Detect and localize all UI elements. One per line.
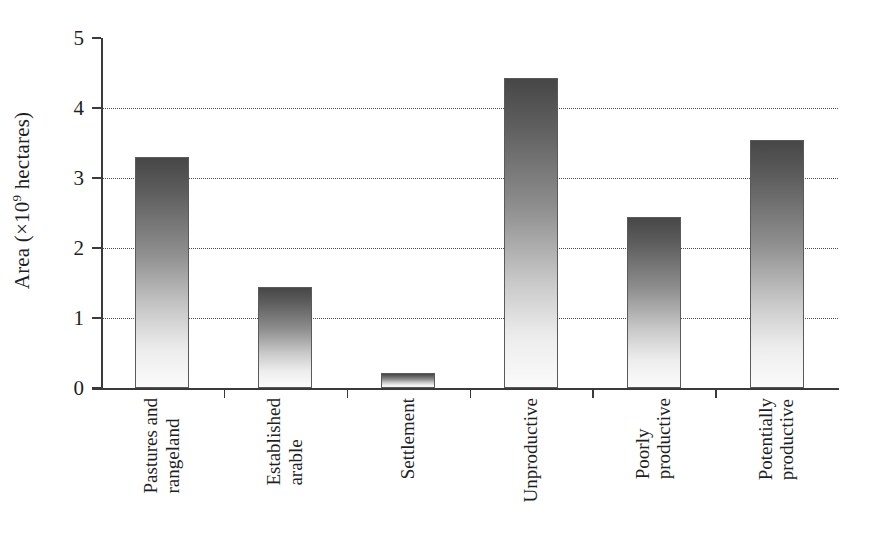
y-axis-line	[101, 38, 103, 388]
gridline	[101, 248, 838, 249]
y-axis-tick-label: 5	[74, 28, 85, 49]
gridline	[101, 318, 838, 319]
bar	[381, 373, 435, 388]
y-axis-label: Area (×109 hectares)	[0, 0, 46, 400]
y-axis-label-prefix: Area (×10	[11, 201, 35, 289]
y-axis-tick-label: 2	[74, 238, 85, 259]
y-axis-tick: 5	[92, 37, 101, 39]
x-axis-category-label-line: productive	[777, 398, 798, 480]
y-axis-tick: 0	[92, 387, 101, 389]
x-axis-category-label: Establishedarable	[224, 392, 347, 547]
bar-chart: Area (×109 hectares) 012345 Pastures and…	[0, 0, 871, 547]
x-axis-labels: Pastures andrangelandEstablishedarableSe…	[101, 392, 838, 547]
bar	[504, 78, 558, 388]
x-axis-category-label-line: Pastures and	[141, 398, 162, 494]
x-axis-category-label-line: arable	[286, 398, 307, 486]
y-axis-tick: 4	[92, 107, 101, 109]
y-axis-tick: 1	[92, 317, 101, 319]
y-axis-label-exponent: 9	[10, 194, 25, 201]
x-axis-category-label: Potentiallyproductive	[715, 392, 838, 547]
y-axis-tick-label: 1	[74, 308, 85, 329]
x-axis-category-label-line: rangeland	[163, 398, 184, 494]
y-axis-tick: 3	[92, 177, 101, 179]
bar	[258, 287, 312, 388]
y-axis-tick: 2	[92, 247, 101, 249]
y-axis-label-suffix: hectares)	[11, 111, 35, 194]
bar	[627, 217, 681, 389]
x-axis-category-label-line: Unproductive	[521, 398, 542, 502]
x-axis-category-label-line: productive	[654, 398, 675, 479]
x-axis-category-label: Pastures andrangeland	[101, 392, 224, 547]
plot-area: 012345	[101, 38, 838, 388]
x-axis-category-label-line: Poorly	[633, 398, 654, 479]
x-axis-category-label: Poorlyproductive	[592, 392, 715, 547]
y-axis-tick-label: 3	[74, 168, 85, 189]
y-axis-tick-label: 4	[74, 98, 85, 119]
gridline	[101, 178, 838, 179]
x-axis-category-label-line: Settlement	[398, 398, 419, 479]
gridline	[101, 108, 838, 109]
x-axis-category-label: Settlement	[347, 392, 470, 547]
x-axis-line	[92, 388, 839, 390]
x-axis-category-label-line: Established	[264, 398, 285, 486]
y-axis-tick-label: 0	[74, 378, 85, 399]
x-axis-category-label: Unproductive	[470, 392, 593, 547]
x-axis-category-label-line: Potentially	[756, 398, 777, 480]
bar	[135, 157, 189, 388]
bar	[750, 140, 804, 389]
